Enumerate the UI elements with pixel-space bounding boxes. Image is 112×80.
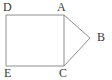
geometry-figure: D A B E C: [0, 0, 112, 80]
vertex-label-e: E: [4, 67, 11, 79]
vertex-label-c: C: [59, 67, 67, 79]
vertex-label-a: A: [57, 1, 66, 13]
figure-canvas: [0, 0, 112, 80]
vertex-label-b: B: [97, 31, 105, 43]
rectangle-dace: [6, 15, 64, 66]
vertex-label-d: D: [3, 1, 12, 13]
triangle-acb: [64, 15, 90, 66]
